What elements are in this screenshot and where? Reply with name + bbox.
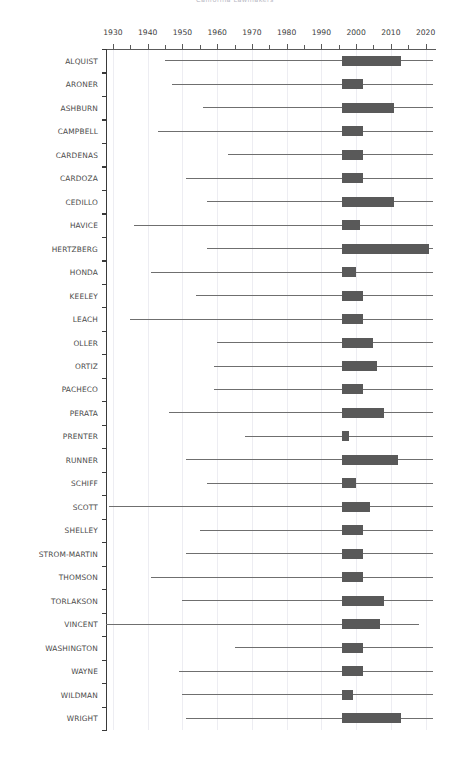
box <box>342 173 363 183</box>
y-tick <box>102 542 107 543</box>
box <box>342 267 356 277</box>
x-tick-label: 2010 <box>381 28 400 37</box>
whisker <box>186 553 433 554</box>
y-tick <box>102 284 107 285</box>
box <box>342 643 363 653</box>
y-tick-label: ASHBURN <box>61 103 99 112</box>
y-tick-label: PACHECO <box>62 385 98 394</box>
whisker <box>200 530 433 531</box>
whisker <box>151 577 432 578</box>
box <box>342 384 363 394</box>
boxplot-row: PERATA <box>106 401 436 424</box>
boxplot-row: ARONER <box>106 72 436 95</box>
y-tick-label: HONDA <box>70 268 98 277</box>
y-tick-label: CEDILLO <box>65 197 98 206</box>
boxplot-row: HAVICE <box>106 213 436 236</box>
box <box>342 79 363 89</box>
boxplot-row: WASHINGTON <box>106 636 436 659</box>
whisker <box>207 201 433 202</box>
y-tick-label: STROM-MARTIN <box>39 549 98 558</box>
boxplot-row: HERTZBERG <box>106 237 436 260</box>
y-tick-label: WRIGHT <box>67 714 98 723</box>
box <box>342 408 384 418</box>
whisker <box>182 694 432 695</box>
x-tick-label: 1940 <box>138 28 157 37</box>
box <box>342 150 363 160</box>
boxplot-row: ALQUIST <box>106 49 436 72</box>
boxplot-row: SCOTT <box>106 495 436 518</box>
boxplot-row: CEDILLO <box>106 190 436 213</box>
boxplot-row: KEELEY <box>106 284 436 307</box>
y-tick-label: LEACH <box>73 315 98 324</box>
box <box>342 666 363 676</box>
whisker <box>214 389 433 390</box>
boxplot-row: PACHECO <box>106 378 436 401</box>
whisker <box>130 319 432 320</box>
y-tick-label: CARDENAS <box>56 150 98 159</box>
whisker <box>186 178 433 179</box>
box <box>342 478 356 488</box>
plot-area: 1930194019501960197019801990200020102020… <box>106 49 436 730</box>
x-tick-label: 1990 <box>312 28 331 37</box>
y-tick-label: PERATA <box>70 408 98 417</box>
y-tick <box>102 495 107 496</box>
whisker <box>235 647 433 648</box>
boxplot-chart: California Lawmakers 1930194019501960197… <box>0 0 470 774</box>
y-tick-label: SCOTT <box>73 502 98 511</box>
y-tick <box>102 96 107 97</box>
y-tick <box>102 166 107 167</box>
whisker <box>228 154 433 155</box>
box <box>342 619 380 629</box>
y-tick <box>102 143 107 144</box>
box <box>342 56 401 66</box>
y-tick-label: KEELEY <box>70 291 98 300</box>
whisker <box>217 342 432 343</box>
y-tick-label: WILDMAN <box>61 690 98 699</box>
y-tick-label: WASHINGTON <box>45 643 98 652</box>
boxplot-row: WRIGHT <box>106 707 436 730</box>
x-tick-label: 1970 <box>242 28 261 37</box>
y-tick <box>102 49 107 50</box>
y-tick <box>102 260 107 261</box>
y-tick-label: SHELLEY <box>65 526 98 535</box>
y-tick <box>102 354 107 355</box>
whisker <box>134 225 433 226</box>
boxplot-row: CAMPBELL <box>106 119 436 142</box>
box <box>342 455 398 465</box>
y-tick <box>102 707 107 708</box>
y-tick <box>102 237 107 238</box>
y-tick <box>102 636 107 637</box>
y-tick <box>102 119 107 120</box>
y-tick <box>102 613 107 614</box>
y-tick-label: ALQUIST <box>65 56 98 65</box>
y-tick-label: CAMPBELL <box>58 127 98 136</box>
box <box>342 525 363 535</box>
y-tick <box>102 660 107 661</box>
boxplot-row: STROM-MARTIN <box>106 542 436 565</box>
box <box>342 572 363 582</box>
box <box>342 314 363 324</box>
x-tick-label: 1960 <box>207 28 226 37</box>
boxplot-row: VINCENT <box>106 613 436 636</box>
y-tick <box>102 307 107 308</box>
y-tick-label: TORLAKSON <box>51 596 98 605</box>
x-tick-label: 1980 <box>277 28 296 37</box>
x-tick-label: 2000 <box>346 28 365 37</box>
y-tick <box>102 683 107 684</box>
y-tick-label: OLLER <box>73 338 98 347</box>
y-tick <box>102 519 107 520</box>
whisker <box>109 506 432 507</box>
y-tick <box>102 190 107 191</box>
boxplot-row: CARDENAS <box>106 143 436 166</box>
boxplot-row: LEACH <box>106 307 436 330</box>
box <box>342 244 429 254</box>
whisker <box>207 483 433 484</box>
box <box>342 338 373 348</box>
whisker <box>158 131 432 132</box>
y-tick-label: CARDOZA <box>60 174 98 183</box>
box <box>342 549 363 559</box>
whisker <box>172 84 433 85</box>
y-tick <box>102 589 107 590</box>
boxplot-row: WILDMAN <box>106 683 436 706</box>
box <box>342 220 359 230</box>
